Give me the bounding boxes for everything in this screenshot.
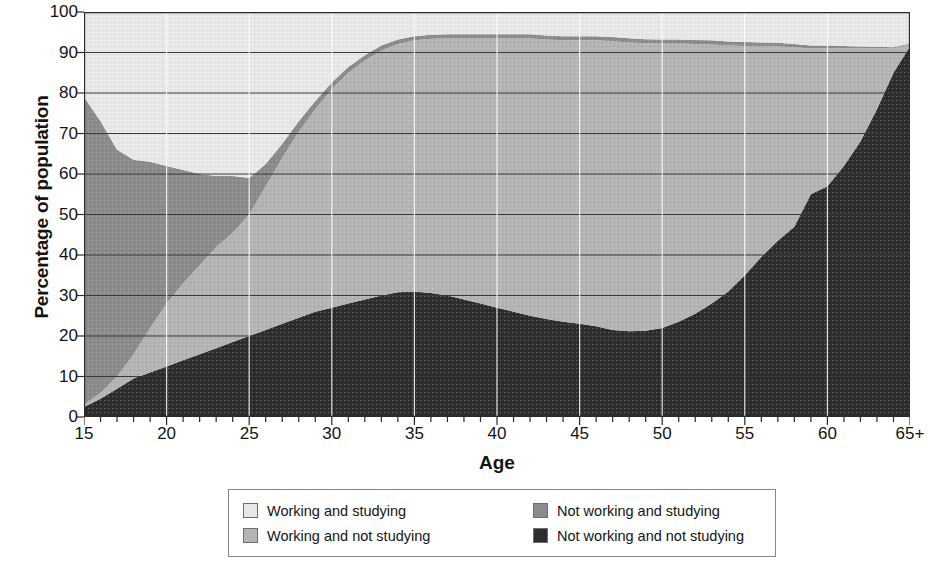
- x-tick-label: 40: [488, 424, 507, 444]
- x-tick-label: 55: [735, 424, 754, 444]
- y-tick-label: 60: [32, 164, 78, 184]
- y-tick-label: 30: [32, 286, 78, 306]
- legend-label: Working and studying: [267, 503, 406, 519]
- legend-label: Not working and studying: [557, 503, 720, 519]
- y-tick-label: 80: [32, 83, 78, 103]
- legend-item[interactable]: Working and studying: [243, 503, 533, 519]
- legend-label: Working and not studying: [267, 528, 430, 544]
- x-tick-label: 25: [240, 424, 259, 444]
- x-tick-label: 20: [157, 424, 176, 444]
- x-tick-label: 45: [570, 424, 589, 444]
- legend-item[interactable]: Not working and studying: [533, 503, 791, 519]
- x-axis-ticks: [84, 417, 910, 426]
- x-axis-title: Age: [84, 452, 910, 474]
- y-axis-tick-labels: 0102030405060708090100: [30, 0, 78, 561]
- y-tick-label: 20: [32, 326, 78, 346]
- legend-swatch: [533, 528, 548, 543]
- x-tick-label: 35: [405, 424, 424, 444]
- y-tick-label: 10: [32, 367, 78, 387]
- y-tick-label: 50: [32, 205, 78, 225]
- x-tick-label: 50: [653, 424, 672, 444]
- x-tick-label: 65+: [896, 424, 925, 444]
- x-tick-label: 60: [818, 424, 837, 444]
- y-tick-label: 70: [32, 124, 78, 144]
- y-tick-label: 40: [32, 245, 78, 265]
- legend-swatch: [243, 503, 258, 518]
- legend-item[interactable]: Working and not studying: [243, 528, 533, 544]
- legend-item[interactable]: Not working and not studying: [533, 528, 791, 544]
- chart-figure: Percentage of population 010203040506070…: [0, 0, 937, 561]
- stacked-area-svg: [84, 12, 910, 417]
- y-tick-label: 100: [32, 2, 78, 22]
- y-axis-ticks: [77, 11, 85, 418]
- y-tick-label: 90: [32, 43, 78, 63]
- chart-legend: Working and studyingNot working and stud…: [228, 489, 776, 557]
- y-tick-label: 0: [32, 407, 78, 427]
- x-tick-label: 15: [75, 424, 94, 444]
- x-tick-label: 30: [322, 424, 341, 444]
- plot-area: [84, 12, 910, 417]
- legend-label: Not working and not studying: [557, 528, 744, 544]
- legend-swatch: [533, 503, 548, 518]
- legend-swatch: [243, 528, 258, 543]
